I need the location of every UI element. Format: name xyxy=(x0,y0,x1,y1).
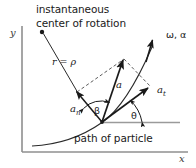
normal-acceleration-label-sub: n xyxy=(76,109,81,117)
total-acceleration-label: a xyxy=(116,80,122,90)
title-line-2: center of rotation xyxy=(36,18,126,29)
theta-angle-label: θ xyxy=(131,111,137,121)
angular-velocity-arrow xyxy=(146,40,153,62)
normal-acceleration-label: an xyxy=(70,104,80,117)
radius-label: r = ρ xyxy=(52,57,76,67)
tangential-acceleration-label-sub: t xyxy=(163,90,166,98)
x-axis-label: x xyxy=(179,154,185,164)
particle-vertex-dot xyxy=(100,120,104,124)
beta-angle-label: β xyxy=(94,106,100,116)
tangential-acceleration-label: at xyxy=(157,85,166,98)
path-caption: path of particle xyxy=(74,133,153,144)
y-axis-label: y xyxy=(10,28,16,38)
angular-motion-label: ω, α xyxy=(166,30,186,40)
kinematics-diagram: instantaneous center of rotation y x r =… xyxy=(0,0,196,168)
title-line-1: instantaneous xyxy=(36,4,109,15)
